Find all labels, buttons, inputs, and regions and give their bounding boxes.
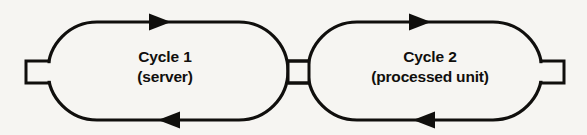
cycle-2-label: Cycle 2 (processed unit) [330, 47, 530, 87]
right-port-opening [536, 63, 543, 81]
cycle-1-title: Cycle 1 [70, 47, 260, 67]
cycle-1-label: Cycle 1 (server) [70, 47, 260, 87]
right-terminal-port [536, 61, 564, 83]
cycle-2-title: Cycle 2 [330, 47, 530, 67]
cycle-diagram-figure: Cycle 1 (server) Cycle 2 (processed unit… [0, 0, 587, 135]
arrow-right-icon [409, 14, 431, 31]
arrow-left-icon [158, 112, 180, 129]
left-terminal-port [26, 61, 54, 83]
cycle-1-subtitle: (server) [70, 67, 260, 87]
cycle-2-subtitle: (processed unit) [330, 67, 530, 87]
center-link-opening [290, 63, 307, 81]
square-port-icon [26, 61, 49, 83]
arrow-right-icon [149, 14, 171, 31]
center-link [288, 61, 309, 83]
square-port-icon [541, 61, 564, 83]
arrow-left-icon [413, 112, 435, 129]
left-port-opening [47, 63, 54, 81]
